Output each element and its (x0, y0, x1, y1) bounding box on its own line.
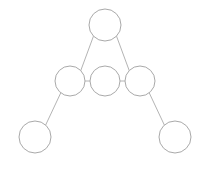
graph-edge-apex-to-mid-left (81, 36, 94, 70)
node-circle-bottom-left[interactable] (19, 121, 51, 153)
node-circle-bottom-right[interactable] (159, 121, 191, 153)
graph-node-bottom-right[interactable] (159, 121, 191, 153)
node-circle-mid-left[interactable] (55, 66, 85, 96)
node-link-diagram (0, 0, 209, 170)
graph-edge-mid-left-to-bottom-left (45, 93, 61, 126)
graph-node-mid-right[interactable] (125, 66, 155, 96)
node-circle-mid-right[interactable] (125, 66, 155, 96)
node-circle-mid-center[interactable] (90, 66, 120, 96)
graph-node-mid-left[interactable] (55, 66, 85, 96)
node-layer (19, 9, 191, 153)
graph-edge-mid-right-to-bottom-right (149, 93, 165, 126)
diagram-canvas (0, 0, 209, 170)
graph-node-bottom-left[interactable] (19, 121, 51, 153)
graph-node-mid-center[interactable] (90, 66, 120, 96)
graph-edge-apex-to-mid-right (117, 36, 130, 70)
node-circle-apex[interactable] (89, 9, 121, 41)
graph-node-apex[interactable] (89, 9, 121, 41)
